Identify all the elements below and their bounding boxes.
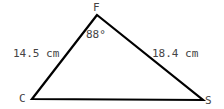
side-label-cf: 14.5 cm bbox=[13, 47, 60, 60]
vertex-label-f: F bbox=[93, 1, 100, 14]
triangle-diagram: F C S 88° 14.5 cm 18.4 cm bbox=[0, 0, 224, 109]
side-label-fs: 18.4 cm bbox=[152, 47, 199, 60]
vertex-label-c: C bbox=[19, 92, 26, 105]
vertex-label-s: S bbox=[205, 94, 212, 107]
angle-label-f: 88° bbox=[86, 28, 106, 41]
